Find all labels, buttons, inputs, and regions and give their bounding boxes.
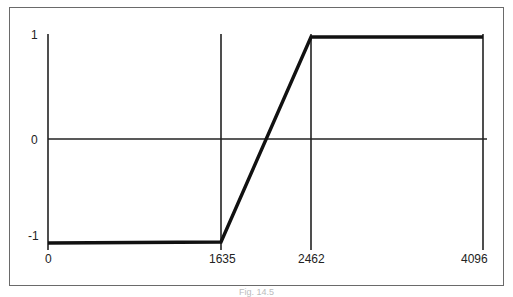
y-tick-label-neg1: -1 xyxy=(28,230,39,242)
transfer-curve xyxy=(48,37,483,243)
x-tick-label-4096: 4096 xyxy=(461,253,488,265)
figure-caption: Fig. 14.5 xyxy=(0,287,513,297)
x-tick-label-1635: 1635 xyxy=(209,253,236,265)
x-tick-label-0: 0 xyxy=(45,253,52,265)
y-tick-label-1: 1 xyxy=(31,29,38,41)
x-tick-label-2462: 2462 xyxy=(298,253,325,265)
y-tick-label-0: 0 xyxy=(31,134,38,146)
